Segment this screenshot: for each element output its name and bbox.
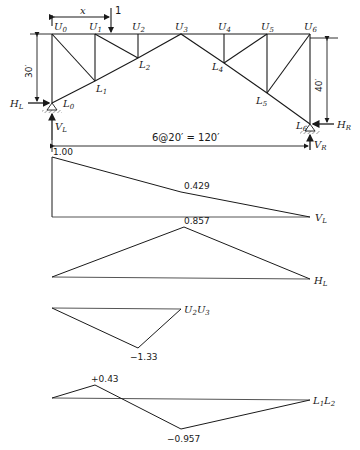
x-dimension-label: x [80,5,86,16]
vr-reaction-label: VR [314,139,327,152]
hr-reaction-label: HR [336,119,352,132]
load-label: 1 [115,5,121,16]
svg-text:U3: U3 [175,21,188,34]
member-u1-l2 [95,34,138,58]
svg-text:U2: U2 [132,21,145,34]
hl-reaction-label: HL [9,98,24,111]
svg-text:L5: L5 [255,95,268,108]
vl-mid-value: 0.429 [184,181,210,191]
bottom-chord [52,34,310,124]
height-dimensions [30,34,338,122]
l1l2-label: L1L2 [312,395,336,408]
influence-line-u2u3 [52,308,181,348]
influence-line-hl [52,227,310,279]
span-label: 6@20′ = 120′ [152,132,220,143]
vl-label: VL [315,212,327,225]
truss [52,34,310,124]
member-u5-l4 [224,34,267,63]
right-height-label: 40′ [314,79,324,93]
member-u0-l1 [52,34,95,81]
svg-text:U1: U1 [89,21,102,34]
u2u3-min-value: −1.33 [130,352,158,362]
l1l2-max-value: +0.43 [91,374,119,384]
hl-label: HL [313,275,328,288]
l1l2-min-value: −0.957 [167,434,200,444]
influence-line-vl [52,157,310,217]
u2u3-label: U2U3 [184,304,210,317]
svg-text:U5: U5 [261,21,274,34]
svg-text:L4: L4 [211,61,223,74]
vl-max-value: 1.00 [53,147,73,157]
left-height-label: 30′ [24,65,34,79]
vl-reaction-label: VL [55,121,67,134]
svg-text:U4: U4 [218,21,231,34]
svg-text:L2: L2 [138,59,151,72]
truss-influence-diagram: 1 x U0 U1 U2 U3 U4 U5 U6 L0 L1 L2 L4 L5 … [0,0,360,450]
member-u6-l5 [267,34,310,93]
svg-text:L1: L1 [95,83,107,96]
influence-line-l1l2 [52,385,310,429]
svg-text:U6: U6 [304,21,317,34]
upper-node-labels: U0 U1 U2 U3 U4 U5 U6 [54,21,317,34]
svg-text:L0: L0 [62,98,75,111]
svg-text:U0: U0 [54,21,67,34]
hl-peak-value: 0.857 [184,216,210,226]
